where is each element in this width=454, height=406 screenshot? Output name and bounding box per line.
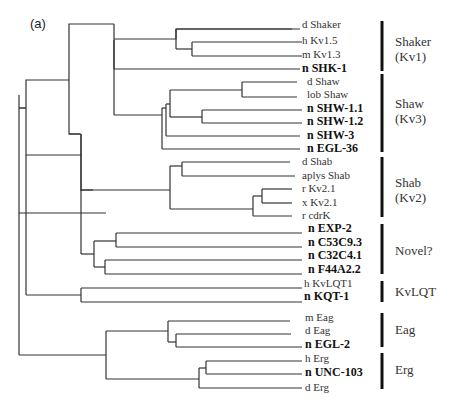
leaf-label: m Eag — [305, 311, 333, 323]
group-label-line2: (Kv1) — [395, 49, 431, 64]
group-label-line1: Shaker — [395, 34, 431, 49]
leaf-label: n SHW-1.1 — [307, 102, 363, 114]
leaf-label: n EGL-2 — [305, 338, 350, 350]
leaf-label: r Kv2.1 — [302, 182, 336, 194]
group-label-line1: Eag — [395, 322, 415, 337]
phylogenetic-tree-figure: (a) d Shakerh Kv1.5m Kv1.3n SHK-1d Shawl… — [0, 0, 454, 406]
group-label: KvLQT — [395, 284, 436, 299]
leaf-label: n EGL-36 — [307, 142, 358, 154]
group-label-line1: Shaw — [395, 96, 426, 111]
leaf-label: n SHW-3 — [307, 129, 354, 141]
leaf-label: d Eag — [305, 324, 330, 336]
shaker-clade — [114, 29, 300, 39]
leaf-label: n C32C4.1 — [308, 249, 362, 261]
group-label: Eag — [395, 322, 415, 337]
leaf-label: d Shaker — [302, 18, 341, 30]
leaf-label: n UNC-103 — [305, 366, 363, 378]
group-label: Shaker(Kv1) — [395, 34, 431, 64]
tree-branches — [0, 0, 454, 406]
group-label-line1: Erg — [395, 362, 414, 377]
panel-label: (a) — [30, 16, 46, 31]
leaf-label: d Shaw — [307, 75, 340, 87]
group-label: Novel? — [395, 243, 433, 258]
leaf-label: h KvLQT1 — [304, 277, 353, 289]
leaf-label: n SHW-1.2 — [307, 115, 363, 127]
group-label-line2: (Kv3) — [395, 111, 426, 126]
leaf-label: n C53C9.3 — [308, 236, 362, 248]
group-label: Shaw(Kv3) — [395, 96, 426, 126]
leaf-label: n EXP-2 — [308, 222, 352, 234]
group-label: Erg — [395, 362, 414, 377]
leaf-label: m Kv1.3 — [302, 48, 341, 60]
root-node — [19, 95, 106, 213]
group-label-line1: Shab — [395, 175, 426, 190]
leaf-label: aplys Shab — [302, 169, 350, 181]
leaf-label: h Erg — [305, 352, 329, 364]
leaf-label: n SHK-1 — [302, 62, 347, 74]
leaf-label: d Erg — [305, 381, 329, 393]
leaf-label: n KQT-1 — [304, 290, 349, 302]
group-label-line1: KvLQT — [395, 284, 436, 299]
group-label: Shab(Kv2) — [395, 175, 426, 205]
leaf-label: lob Shaw — [307, 88, 348, 100]
leaf-label: n F44A2.2 — [308, 263, 361, 275]
group-label-line2: (Kv2) — [395, 190, 426, 205]
kv-kvlqt-node — [19, 80, 81, 155]
group-label-line1: Novel? — [395, 243, 433, 258]
leaf-label: h Kv1.5 — [302, 34, 337, 46]
kv-node — [69, 24, 114, 134]
leaf-label: r cdrK — [302, 209, 330, 221]
leaf-label: d Shab — [302, 155, 332, 167]
leaf-label: x Kv2.1 — [302, 196, 337, 208]
